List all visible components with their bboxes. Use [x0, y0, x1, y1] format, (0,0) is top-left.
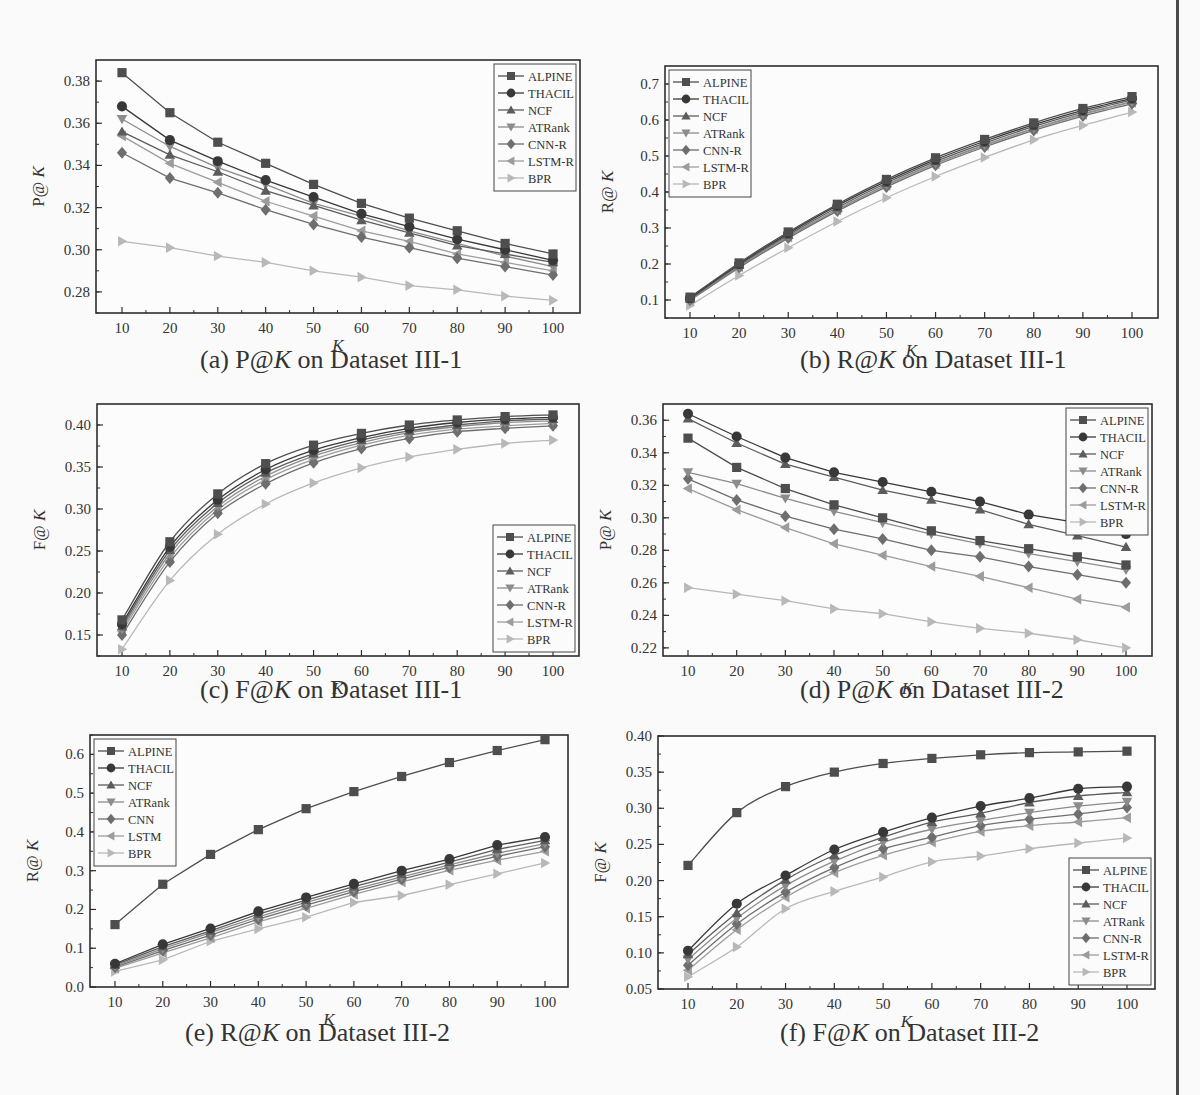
circle-marker-icon: [927, 813, 937, 823]
legend-label: ATRank: [1103, 915, 1145, 929]
circle-marker-icon: [1073, 784, 1083, 794]
square-marker-icon: [879, 759, 888, 768]
x-tick-label: 80: [1022, 996, 1037, 1012]
square-marker-icon: [976, 750, 985, 759]
square-marker-icon: [781, 782, 790, 791]
x-tick-label: 40: [827, 996, 842, 1012]
square-marker-icon: [1074, 747, 1083, 756]
legend-label: NCF: [1103, 898, 1127, 912]
circle-marker-icon: [683, 946, 693, 956]
y-tick-label: 0.20: [626, 873, 652, 889]
x-tick-label: 50: [876, 996, 891, 1012]
circle-marker-icon: [829, 844, 839, 854]
circle-marker-icon: [878, 827, 888, 837]
y-tick-label: 0.25: [626, 836, 652, 852]
square-marker-icon: [1122, 747, 1131, 756]
figure-page: 0.280.300.320.340.360.381020304050607080…: [0, 0, 1200, 1095]
legend-label: BPR: [1103, 966, 1127, 980]
circle-marker-icon: [732, 899, 742, 909]
legend-label: ALPINE: [1103, 864, 1148, 878]
legend-label: THACIL: [1103, 881, 1149, 895]
x-tick-label: 70: [973, 996, 988, 1012]
x-tick-label: 60: [924, 996, 939, 1012]
circle-marker-icon: [780, 870, 790, 880]
caption-f: (f) F@K on Dataset III-2: [780, 1018, 1039, 1048]
y-tick-label: 0.40: [626, 728, 652, 744]
y-tick-label: 0.10: [626, 945, 652, 961]
square-marker-icon: [683, 861, 692, 870]
circle-marker-icon: [976, 801, 986, 811]
legend: ALPINETHACILNCFATRankCNN-RLSTM-RBPR: [1069, 858, 1151, 985]
circle-legend-icon: [1082, 883, 1091, 892]
legend-label: CNN-R: [1103, 932, 1143, 946]
square-marker-icon: [927, 754, 936, 763]
y-axis-label: F@ K: [591, 840, 610, 882]
circle-marker-icon: [1122, 782, 1132, 792]
x-tick-label: 20: [729, 996, 744, 1012]
plot-area: 0.050.100.150.200.250.300.350.4010203040…: [591, 728, 1155, 1031]
x-tick-label: 100: [1116, 996, 1139, 1012]
circle-marker-icon: [1024, 793, 1034, 803]
y-tick-label: 0.15: [626, 909, 652, 925]
x-tick-label: 30: [778, 996, 793, 1012]
legend-label: LSTM-R: [1103, 949, 1150, 963]
y-tick-label: 0.30: [626, 800, 652, 816]
y-tick-label: 0.05: [626, 981, 652, 997]
square-legend-icon: [1082, 866, 1090, 874]
chart-panel-f: 0.050.100.150.200.250.300.350.4010203040…: [0, 0, 1200, 1095]
square-marker-icon: [732, 808, 741, 817]
y-tick-label: 0.35: [626, 764, 652, 780]
square-marker-icon: [830, 768, 839, 777]
x-tick-label: 90: [1071, 996, 1086, 1012]
square-marker-icon: [1025, 748, 1034, 757]
x-tick-label: 10: [681, 996, 696, 1012]
